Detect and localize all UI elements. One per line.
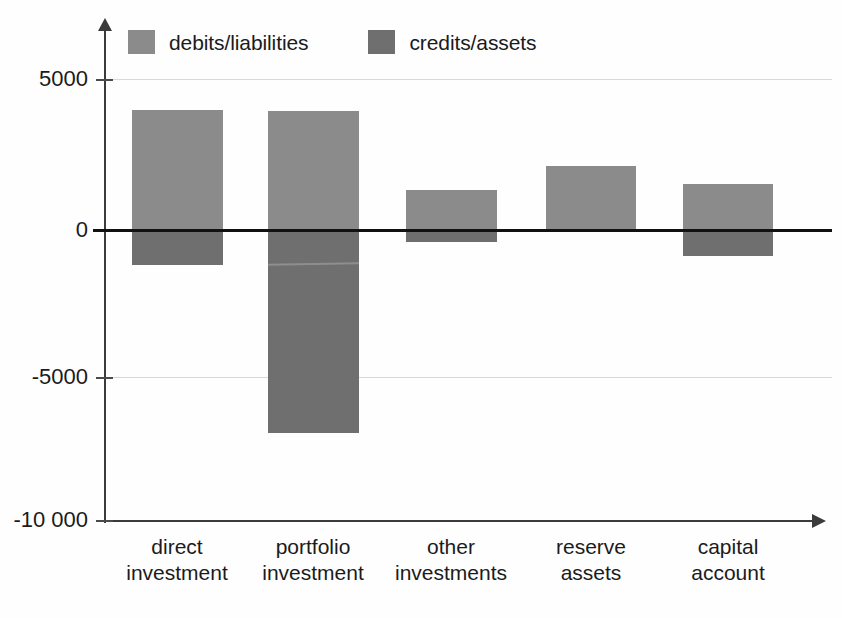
bar-negative-portfolio-investment — [268, 231, 359, 433]
x-axis-label-line1: direct — [112, 534, 242, 560]
x-axis-label-capital-account: capital account — [663, 534, 793, 586]
x-axis-label-line2: investment — [112, 560, 242, 586]
y-tick-mark-5000 — [96, 79, 113, 81]
y-tick-label-minus10000: -10 000 — [13, 509, 88, 531]
x-axis-label-line2: investment — [248, 560, 378, 586]
bar-positive-reserve-assets — [546, 166, 636, 230]
bar-negative-other-investments — [406, 231, 497, 242]
x-axis-line — [105, 520, 814, 522]
x-axis-label-line2: investments — [386, 560, 516, 586]
y-tick-label-minus5000: -5000 — [32, 366, 88, 388]
gridline-minus5000 — [105, 377, 832, 378]
y-tick-mark-minus5000 — [96, 377, 113, 379]
bar-positive-other-investments — [406, 190, 497, 230]
bar-negative-direct-investment — [132, 231, 223, 265]
y-tick-mark-minus10000 — [96, 520, 113, 522]
y-tick-label-0: 0 — [76, 219, 88, 241]
bar-positive-portfolio-investment — [268, 111, 359, 230]
x-axis-label-line2: account — [663, 560, 793, 586]
gridline-5000 — [105, 79, 832, 80]
bar-negative-capital-account — [683, 231, 773, 256]
bar-positive-direct-investment — [132, 110, 223, 230]
x-axis-label-line1: other — [386, 534, 516, 560]
x-axis-label-line1: reserve — [526, 534, 656, 560]
plot-area: 5000 0 -5000 -10 000 direct investment — [0, 0, 842, 618]
zero-baseline — [93, 229, 832, 232]
arrow-right-icon — [812, 514, 826, 528]
y-axis-line — [104, 28, 106, 523]
x-axis-label-line1: capital — [663, 534, 793, 560]
bar-positive-capital-account — [683, 184, 773, 230]
x-axis-label-reserve-assets: reserve assets — [526, 534, 656, 586]
x-axis-label-line2: assets — [526, 560, 656, 586]
x-axis-label-portfolio-investment: portfolio investment — [248, 534, 378, 586]
x-axis-label-direct-investment: direct investment — [112, 534, 242, 586]
arrow-up-icon — [98, 18, 112, 31]
y-tick-label-5000: 5000 — [39, 68, 88, 90]
chart-page: debits/liabilities credits/assets 5000 0… — [0, 0, 842, 618]
x-axis-label-other-investments: other investments — [386, 534, 516, 586]
x-axis-label-line1: portfolio — [248, 534, 378, 560]
